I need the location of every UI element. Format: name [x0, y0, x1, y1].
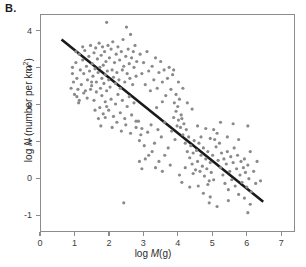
- scatter-point: [242, 166, 245, 169]
- scatter-point: [178, 98, 181, 101]
- scatter-point: [93, 109, 96, 112]
- scatter-point: [74, 50, 77, 53]
- scatter-point: [191, 108, 194, 111]
- scatter-point: [223, 182, 226, 185]
- scatter-point: [134, 126, 137, 129]
- y-tick-mark: [36, 67, 40, 68]
- scatter-point: [105, 21, 108, 24]
- scatter-point: [100, 94, 103, 97]
- scatter-point: [126, 72, 129, 75]
- scatter-point: [169, 164, 172, 167]
- scatter-point: [97, 71, 100, 74]
- scatter-point: [126, 105, 129, 108]
- scatter-point: [244, 171, 247, 174]
- scatter-point: [245, 185, 248, 188]
- scatter-point: [157, 71, 160, 74]
- scatter-point: [106, 69, 109, 72]
- scatter-point: [162, 68, 165, 71]
- scatter-point: [166, 77, 169, 80]
- scatter-point: [184, 142, 187, 145]
- scatter-point: [197, 184, 200, 187]
- scatter-point: [178, 173, 181, 176]
- scatter-point: [107, 109, 110, 112]
- scatter-point: [174, 93, 177, 96]
- scatter-point: [109, 98, 112, 101]
- scatter-point: [209, 137, 212, 140]
- scatter-point: [71, 72, 74, 75]
- scatter-point: [76, 88, 79, 91]
- scatter-point: [75, 95, 78, 98]
- scatter-point: [211, 154, 214, 157]
- scatter-point: [89, 88, 92, 91]
- scatter-point: [220, 151, 223, 154]
- scatter-point: [206, 183, 209, 186]
- y-tick-label: 4: [16, 26, 32, 36]
- panel-label: B.: [5, 2, 16, 14]
- scatter-point: [100, 54, 103, 57]
- scatter-point: [232, 161, 235, 164]
- x-tick-label: 3: [133, 238, 153, 248]
- scatter-point: [202, 146, 205, 149]
- scatter-point: [212, 128, 215, 131]
- scatter-point: [246, 124, 249, 127]
- scatter-point: [128, 95, 131, 98]
- scatter-point: [221, 173, 224, 176]
- scatter-point: [92, 99, 95, 102]
- scatter-point: [146, 131, 149, 134]
- scatter-point: [82, 72, 85, 75]
- scatter-point: [131, 83, 134, 86]
- scatter-point: [89, 44, 92, 47]
- scatter-point: [228, 170, 231, 173]
- scatter-point: [108, 86, 111, 89]
- scatter-point: [201, 165, 204, 168]
- scatter-point: [112, 115, 115, 118]
- scatter-point: [83, 49, 86, 52]
- scatter-point: [97, 117, 100, 120]
- scatter-point: [197, 142, 200, 145]
- scatter-point: [161, 170, 164, 173]
- x-tick-label: 1: [64, 238, 84, 248]
- scatter-point: [153, 142, 156, 145]
- scatter-point: [99, 87, 102, 90]
- scatter-point: [69, 87, 72, 90]
- scatter-point: [119, 87, 122, 90]
- scatter-point: [209, 161, 212, 164]
- scatter-point: [116, 45, 119, 48]
- figure-panel-b: B. log M(g) log N (number per km2) -1012…: [0, 0, 306, 267]
- scatter-point: [172, 116, 175, 119]
- scatter-point: [104, 73, 107, 76]
- scatter-point: [186, 101, 189, 104]
- y-tick-mark: [36, 141, 40, 142]
- scatter-point: [121, 38, 124, 41]
- scatter-point: [111, 40, 114, 43]
- scatter-point: [151, 65, 154, 68]
- scatter-point: [100, 77, 103, 80]
- scatter-point: [152, 78, 155, 81]
- scatter-point: [182, 122, 185, 125]
- scatter-point: [177, 118, 180, 121]
- scatter-point: [163, 154, 166, 157]
- scatter-point: [170, 129, 173, 132]
- scatter-point: [81, 58, 84, 61]
- scatter-point: [239, 160, 242, 163]
- scatter-point: [102, 112, 105, 115]
- scatter-point: [117, 78, 120, 81]
- scatter-point: [173, 101, 176, 104]
- scatter-point: [194, 168, 197, 171]
- scatter-point: [104, 100, 107, 103]
- scatter-point: [123, 117, 126, 120]
- scatter-point: [104, 116, 107, 119]
- scatter-point: [181, 87, 184, 90]
- scatter-point: [164, 94, 167, 97]
- scatter-point: [124, 123, 127, 126]
- scatter-point: [230, 178, 233, 181]
- scatter-point: [92, 51, 95, 54]
- x-tick-label: 4: [168, 238, 188, 248]
- scatter-point: [198, 170, 201, 173]
- scatter-point: [156, 128, 159, 131]
- x-tick-mark: [177, 232, 178, 236]
- scatter-point: [91, 75, 94, 78]
- scatter-point: [232, 122, 235, 125]
- scatter-point: [222, 157, 225, 160]
- scatter-point: [139, 133, 142, 136]
